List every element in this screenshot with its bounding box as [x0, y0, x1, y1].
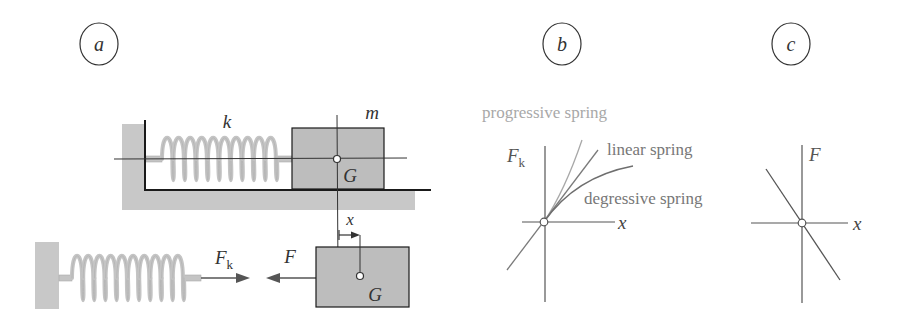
b-y-axis-label: Fk	[506, 145, 526, 170]
spring-force-label: Fk	[214, 247, 234, 272]
panel-a-label: a	[94, 33, 104, 55]
b-origin-marker	[540, 218, 548, 226]
spring-end-stub	[277, 156, 292, 162]
spring-end-stub	[184, 275, 201, 281]
displaced-cog-marker	[357, 273, 364, 280]
spring-constant-label: k	[223, 111, 232, 132]
progressive-spring-label: progressive spring	[482, 103, 608, 122]
panel-c-label: c	[787, 33, 796, 55]
displacement-arrowhead	[351, 232, 360, 239]
displaced-cog-label: G	[368, 284, 382, 305]
panel-b: b progressive spring linear spring degre…	[482, 23, 703, 302]
fixed-wall	[35, 242, 59, 309]
applied-force-arrowhead	[266, 273, 280, 283]
spring-force-arrowhead	[236, 273, 250, 283]
center-of-gravity-marker	[334, 156, 341, 163]
degressive-spring-label: degressive spring	[584, 189, 703, 208]
linear-spring-label: linear spring	[607, 140, 693, 159]
panel-a: a k m G Fk F x G	[35, 23, 431, 309]
c-origin-marker	[798, 219, 806, 227]
c-x-axis-label: x	[852, 213, 862, 234]
spring-mass-diagram: a k m G Fk F x G	[0, 0, 897, 331]
wall-floor-line	[145, 120, 431, 190]
c-y-axis-label: F	[808, 144, 821, 165]
panel-b-label: b	[557, 33, 567, 55]
displacement-label: x	[345, 210, 354, 229]
panel-c: c F x	[751, 23, 862, 303]
mass-label: m	[365, 102, 379, 123]
spring-lower	[59, 256, 201, 301]
applied-force-label: F	[283, 246, 296, 267]
b-x-axis-label: x	[617, 212, 627, 233]
progressive-spring-curve	[544, 140, 582, 222]
cog-label: G	[343, 165, 357, 186]
